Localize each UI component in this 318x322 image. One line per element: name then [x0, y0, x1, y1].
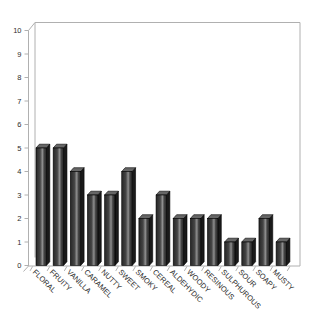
bar-sour [242, 238, 256, 265]
bar-fruity [53, 144, 67, 265]
bar-side-face [201, 215, 204, 266]
y-axis-tick-label: 10 [13, 26, 21, 35]
bar-side-face [287, 238, 290, 265]
y-axis-tick-label: 2 [17, 214, 21, 223]
bar-front-face [156, 195, 166, 266]
bar-side-face [252, 238, 255, 265]
bar-side-face [46, 144, 49, 265]
y-axis-tick-label: 6 [17, 120, 21, 129]
y-axis-tick-label: 1 [17, 238, 21, 247]
bar-soapy [259, 215, 273, 266]
bar-caramel [87, 191, 101, 265]
y-axis-tick-label: 3 [17, 191, 21, 200]
bar-side-face [98, 191, 101, 265]
bar-floral [36, 144, 50, 265]
bar-side-face [132, 168, 135, 266]
y-axis-tick-label: 0 [17, 261, 21, 270]
y-axis-tick-label: 7 [17, 97, 21, 106]
bar-side-face [269, 215, 272, 266]
bar-front-face [36, 148, 46, 266]
bar-front-face [259, 219, 269, 266]
chart-canvas: 012345678910FLORALFRUITYVANILLACARAMELNU… [0, 0, 318, 322]
bar-front-face [70, 172, 80, 266]
bar-front-face [122, 172, 132, 266]
bar-front-face [105, 195, 115, 266]
bar-sweet [122, 168, 136, 266]
bar-front-face [190, 219, 200, 266]
bar-smoky [139, 215, 153, 266]
bar-cereal [156, 191, 170, 265]
bar-side-face [166, 191, 169, 265]
bar-side-face [218, 215, 221, 266]
bar-aldehydic [173, 215, 187, 266]
bar-front-face [87, 195, 97, 266]
bar-front-face [139, 219, 149, 266]
bar-resinous [208, 215, 222, 266]
bar-side-face [81, 168, 84, 266]
y-axis-tick-label: 5 [17, 144, 21, 153]
bar-side-face [115, 191, 118, 265]
bar-nutty [105, 191, 119, 265]
bar-front-face [276, 242, 286, 266]
bar-chart: 012345678910FLORALFRUITYVANILLACARAMELNU… [0, 0, 318, 322]
bar-front-face [173, 219, 183, 266]
bar-side-face [64, 144, 67, 265]
bar-side-face [184, 215, 187, 266]
bar-front-face [242, 242, 252, 266]
bar-front-face [225, 242, 235, 266]
bar-side-face [149, 215, 152, 266]
bar-side-face [235, 238, 238, 265]
y-axis-tick-label: 8 [17, 73, 21, 82]
bar-woody [190, 215, 204, 266]
bar-sulphurous [225, 238, 239, 265]
y-axis-tick-label: 4 [17, 167, 21, 176]
bar-front-face [208, 219, 218, 266]
y-axis-tick-label: 9 [17, 50, 21, 59]
bar-vanilla [70, 168, 84, 266]
bar-musty [276, 238, 290, 265]
bar-front-face [53, 148, 63, 266]
